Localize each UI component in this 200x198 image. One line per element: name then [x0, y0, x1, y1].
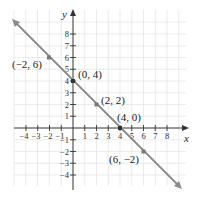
- svg-text:3: 3: [65, 88, 69, 98]
- svg-text:−3: −3: [31, 131, 40, 141]
- svg-text:−2: −2: [43, 131, 52, 141]
- svg-text:7: 7: [153, 131, 157, 141]
- point-2-2: [95, 103, 99, 107]
- svg-text:6: 6: [141, 131, 145, 141]
- point-4-0: [118, 126, 122, 130]
- label-point-4-0: (4, 0): [117, 111, 141, 124]
- svg-text:3: 3: [106, 131, 110, 141]
- grid: [14, 10, 186, 186]
- x-axis-arrow-icon: [182, 125, 189, 131]
- svg-text:2: 2: [94, 131, 98, 141]
- svg-text:1: 1: [83, 131, 87, 141]
- label-point-2-2: (2, 2): [101, 94, 125, 107]
- point-neg2-6: [47, 56, 51, 60]
- point-0-4: [71, 79, 75, 83]
- point-6-neg2: [142, 150, 146, 154]
- svg-text:7: 7: [65, 41, 69, 51]
- y-axis-arrow-icon: [70, 9, 76, 16]
- x-axis-label: x: [183, 132, 189, 144]
- svg-text:6: 6: [65, 53, 69, 63]
- label-point-6-neg2: (6, −2): [109, 153, 139, 166]
- svg-text:1: 1: [65, 111, 69, 121]
- svg-text:8: 8: [165, 131, 169, 141]
- label-point-neg2-6: (−2, 6): [12, 58, 42, 71]
- svg-text:−1: −1: [60, 135, 69, 145]
- svg-text:−3: −3: [60, 158, 69, 168]
- label-point-0-4: (0, 4): [78, 68, 102, 81]
- svg-text:−2: −2: [60, 147, 69, 157]
- y-axis-label: y: [61, 8, 67, 20]
- svg-text:8: 8: [65, 29, 69, 39]
- svg-text:−4: −4: [60, 170, 70, 180]
- svg-text:−4: −4: [19, 131, 29, 141]
- svg-text:2: 2: [65, 100, 69, 110]
- coordinate-plane: −4 −3 −2 −1 1 2 3 4 5 6 7 8 8 7 6 5 4 3 …: [0, 0, 200, 198]
